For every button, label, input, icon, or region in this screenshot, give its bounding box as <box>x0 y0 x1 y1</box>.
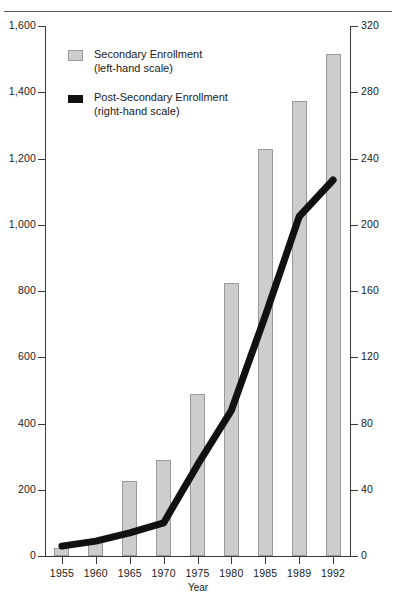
bar-1992 <box>326 54 341 556</box>
legend-sub-secondary: (left-hand scale) <box>94 62 202 76</box>
x-axis-tick <box>62 557 63 564</box>
legend-swatch-line-icon <box>68 95 83 103</box>
left-axis-tick <box>38 357 45 358</box>
right-axis-tick-label: 0 <box>361 549 367 561</box>
x-axis-tick <box>198 557 199 564</box>
right-axis-tick <box>351 225 358 226</box>
legend-title-post-secondary: Post-Secondary Enrollment <box>94 91 228 103</box>
x-axis-tick-label: 1992 <box>313 567 353 579</box>
x-axis-title: Year <box>0 582 396 593</box>
left-axis-tick <box>38 424 45 425</box>
right-axis-tick <box>351 424 358 425</box>
bar-1960 <box>88 539 103 556</box>
bar-1989 <box>292 101 307 556</box>
legend: Secondary Enrollment (left-hand scale) P… <box>68 48 228 134</box>
right-axis-tick <box>351 92 358 93</box>
right-axis-tick-label: 160 <box>361 284 379 296</box>
bar-1955 <box>54 548 69 556</box>
left-axis-tick-label: 200 <box>18 483 36 495</box>
left-axis-tick-label: 600 <box>18 350 36 362</box>
legend-title-secondary: Secondary Enrollment <box>94 48 202 60</box>
left-axis-tick-label: 1,400 <box>9 85 36 97</box>
left-axis-tick <box>38 225 45 226</box>
bar-1965 <box>122 481 137 556</box>
x-axis-tick <box>333 557 334 564</box>
legend-label-post-secondary: Post-Secondary Enrollment (right-hand sc… <box>94 91 228 118</box>
left-axis-line <box>45 26 46 557</box>
right-axis-tick-label: 80 <box>361 417 373 429</box>
x-axis-tick <box>164 557 165 564</box>
x-axis-tick <box>299 557 300 564</box>
right-axis-tick-label: 200 <box>361 218 379 230</box>
bar-1985 <box>258 149 273 556</box>
right-axis-tick <box>351 26 358 27</box>
x-axis-tick <box>265 557 266 564</box>
right-axis-tick-label: 320 <box>361 19 379 31</box>
bar-1970 <box>156 460 171 556</box>
legend-item-post-secondary: Post-Secondary Enrollment (right-hand sc… <box>68 91 228 118</box>
header-divider <box>4 11 392 12</box>
left-axis-tick-label: 400 <box>18 417 36 429</box>
left-axis-tick <box>38 490 45 491</box>
right-axis-tick <box>351 159 358 160</box>
left-axis-tick-label: 0 <box>30 549 36 561</box>
chart-figure: 02004006008001,0001,2001,4001,600 040801… <box>0 0 396 599</box>
bar-1980 <box>224 283 239 556</box>
left-axis-tick <box>38 291 45 292</box>
left-axis-tick-label: 1,000 <box>9 218 36 230</box>
left-axis-tick-label: 800 <box>18 284 36 296</box>
legend-label-secondary: Secondary Enrollment (left-hand scale) <box>94 48 202 75</box>
left-axis-tick <box>38 159 45 160</box>
right-axis-tick-label: 40 <box>361 483 373 495</box>
legend-item-secondary: Secondary Enrollment (left-hand scale) <box>68 48 228 75</box>
right-axis-tick <box>351 490 358 491</box>
legend-sub-post-secondary: (right-hand scale) <box>94 105 228 119</box>
right-axis-tick-label: 280 <box>361 85 379 97</box>
left-axis-tick <box>38 26 45 27</box>
x-axis-tick <box>231 557 232 564</box>
left-axis-tick-label: 1,600 <box>9 19 36 31</box>
right-axis-tick <box>351 357 358 358</box>
right-axis-tick <box>351 291 358 292</box>
x-axis-tick <box>130 557 131 564</box>
left-axis-tick <box>38 92 45 93</box>
x-axis-tick <box>96 557 97 564</box>
left-axis-tick <box>38 556 45 557</box>
bar-1975 <box>190 394 205 556</box>
right-axis-tick <box>351 556 358 557</box>
left-axis-tick-label: 1,200 <box>9 152 36 164</box>
right-axis-tick-label: 240 <box>361 152 379 164</box>
right-axis-tick-label: 120 <box>361 350 379 362</box>
legend-swatch-bar-icon <box>68 50 83 61</box>
